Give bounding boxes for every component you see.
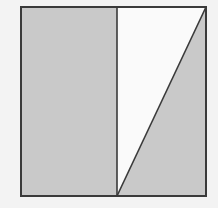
left-shaded-rectangle [21,7,117,196]
geometry-diagram [0,0,218,208]
